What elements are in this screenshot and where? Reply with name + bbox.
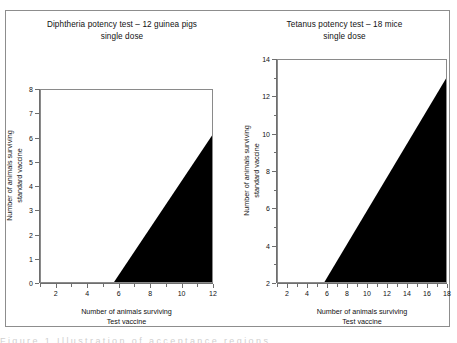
y-axis-tick — [274, 152, 277, 153]
x-axis-title-line2: Test vaccine — [277, 317, 447, 327]
x-axis-tick-label: 10 — [178, 290, 186, 297]
acceptance-region-diphtheria — [41, 90, 212, 282]
x-axis-tick — [357, 284, 358, 287]
x-axis-title-line1: Number of animals surviving — [40, 307, 213, 317]
y-axis-tick — [35, 162, 39, 163]
x-axis-tick-label: 8 — [148, 290, 152, 297]
y-axis-tick — [272, 96, 276, 97]
y-axis-tick — [35, 210, 39, 211]
x-axis-tick — [387, 284, 388, 288]
chart-title-tetanus: Tetanus potency test – 18 mice single do… — [238, 19, 451, 42]
chart-panel-tetanus: Tetanus potency test – 18 mice single do… — [238, 11, 451, 326]
chart-title-line2: single dose — [6, 31, 238, 43]
x-axis-title-line1: Number of animals surviving — [277, 307, 447, 317]
x-axis-tick — [287, 284, 288, 288]
x-axis-tick — [447, 284, 448, 288]
y-axis-title-line2: standard vaccine — [14, 116, 24, 236]
y-axis-spine — [276, 59, 277, 283]
x-axis-tick — [119, 284, 120, 288]
y-axis-tick — [35, 138, 39, 139]
x-axis-tick — [87, 284, 88, 288]
x-axis-tick-label: 18 — [443, 290, 451, 297]
y-axis-tick-label: 8 — [18, 86, 33, 93]
y-axis-tick-label: 14 — [255, 56, 270, 63]
x-axis-tick — [317, 284, 318, 287]
y-axis-tick — [274, 227, 277, 228]
x-axis-tick — [327, 284, 328, 288]
y-axis-tick-label: 0 — [18, 280, 33, 287]
acceptance-region-tetanus — [278, 60, 446, 282]
y-axis-tick — [35, 235, 39, 236]
x-axis-tick-label: 12 — [383, 290, 391, 297]
x-axis-tick — [297, 284, 298, 287]
y-axis-title-line1: Number of animals surviving — [242, 111, 252, 231]
x-axis-tick — [134, 284, 135, 287]
y-axis-tick — [35, 283, 39, 284]
y-axis-tick — [35, 186, 39, 187]
figure-frame: Diphtheria potency test – 12 guinea pigs… — [5, 10, 450, 327]
x-axis-tick-label: 4 — [305, 290, 309, 297]
y-axis-tick — [272, 59, 276, 60]
y-axis-tick-label: 4 — [255, 242, 270, 249]
x-axis-tick — [213, 284, 214, 288]
chart-panel-diphtheria: Diphtheria potency test – 12 guinea pigs… — [6, 11, 238, 326]
y-axis-tick — [272, 208, 276, 209]
x-axis-tick — [397, 284, 398, 287]
y-axis-tick — [274, 115, 277, 116]
x-axis-tick-label: 10 — [363, 290, 371, 297]
x-axis-tick — [427, 284, 428, 288]
x-axis-spine — [277, 283, 447, 284]
chart-title-line1: Diphtheria potency test – 12 guinea pigs — [6, 19, 238, 31]
x-axis-tick-label: 4 — [85, 290, 89, 297]
y-axis-tick — [274, 190, 277, 191]
y-axis-tick — [272, 283, 276, 284]
x-axis-tick-label: 2 — [54, 290, 58, 297]
x-axis-tick — [197, 284, 198, 287]
x-axis-tick — [166, 284, 167, 287]
y-axis-title-line2: standard vaccine — [251, 111, 261, 231]
y-axis-tick — [35, 259, 39, 260]
chart-title-line1: Tetanus potency test – 18 mice — [238, 19, 451, 31]
x-axis-title-tetanus: Number of animals surviving Test vaccine — [277, 307, 447, 326]
x-axis-tick — [347, 284, 348, 288]
plot-area-tetanus — [277, 59, 447, 283]
y-axis-tick — [272, 246, 276, 247]
y-axis-tick — [272, 171, 276, 172]
y-axis-title-line1: Number of animals surviving — [5, 116, 15, 236]
y-axis-tick-label: 1 — [18, 255, 33, 262]
y-axis-title-diphtheria: Number of animals surviving standard vac… — [5, 116, 24, 236]
x-axis-tick-label: 14 — [403, 290, 411, 297]
x-axis-tick — [150, 284, 151, 288]
x-axis-tick — [407, 284, 408, 288]
x-axis-tick — [40, 284, 41, 287]
plot-area-diphtheria — [40, 89, 213, 283]
x-axis-tick — [377, 284, 378, 287]
y-axis-tick — [274, 78, 277, 79]
x-axis-tick — [56, 284, 57, 288]
y-axis-tick — [35, 89, 39, 90]
y-axis-spine — [39, 89, 40, 283]
y-axis-title-tetanus: Number of animals surviving standard vac… — [242, 111, 261, 231]
x-axis-tick — [71, 284, 72, 287]
x-axis-tick-label: 8 — [345, 290, 349, 297]
x-axis-tick — [417, 284, 418, 287]
x-axis-tick — [307, 284, 308, 288]
x-axis-tick-label: 6 — [117, 290, 121, 297]
chart-title-diphtheria: Diphtheria potency test – 12 guinea pigs… — [6, 19, 238, 42]
x-axis-tick — [337, 284, 338, 287]
page-bottom-text: Figure 1 Illustration of acceptance regi… — [0, 336, 457, 343]
x-axis-tick-label: 6 — [325, 290, 329, 297]
y-axis-tick-label: 2 — [255, 280, 270, 287]
x-axis-tick — [367, 284, 368, 288]
x-axis-tick — [182, 284, 183, 288]
x-axis-title-line2: Test vaccine — [40, 317, 213, 327]
x-axis-tick-label: 2 — [285, 290, 289, 297]
y-axis-tick — [274, 264, 277, 265]
chart-title-line2: single dose — [238, 31, 451, 43]
x-axis-tick-label: 12 — [209, 290, 217, 297]
x-axis-tick — [437, 284, 438, 287]
x-axis-tick — [277, 284, 278, 287]
y-axis-tick — [35, 113, 39, 114]
y-axis-tick — [272, 134, 276, 135]
x-axis-tick — [103, 284, 104, 287]
